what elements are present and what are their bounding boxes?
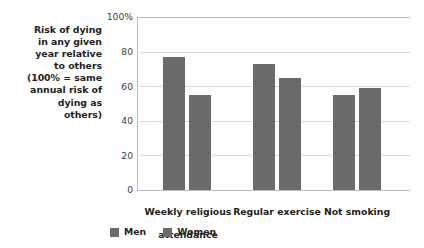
legend-item-men[interactable]: Men [110, 227, 146, 237]
y-axis-title-line: in any given [2, 36, 102, 48]
plot-area [137, 17, 410, 190]
gridline-0 [137, 190, 410, 191]
bar-chart: Risk of dying in any given year relative… [0, 0, 424, 248]
bar-group-not-smoking [333, 17, 403, 190]
x-category-label-line: Not smoking [324, 206, 390, 217]
bar-women-regular-exercise[interactable] [279, 78, 301, 190]
x-category-label-not-smoking: Not smoking [312, 195, 402, 218]
y-axis-title-line: others) [2, 109, 102, 121]
bar-group-regular-exercise [253, 17, 323, 190]
y-axis-title-line: Risk of dying [2, 24, 102, 36]
y-tick-label-60: 60 [99, 82, 133, 92]
legend-label-men: Men [124, 227, 146, 237]
legend-label-women: Women [177, 227, 216, 237]
y-tick-label-0: 0 [99, 185, 133, 195]
x-category-label-line: Weekly religious [145, 206, 232, 217]
y-tick-label-80: 80 [99, 47, 133, 57]
y-tick-label-20: 20 [99, 151, 133, 161]
y-axis-title-line: to others [2, 60, 102, 72]
y-tick-label-100: 100% [99, 12, 133, 22]
bar-women-weekly-religious-attendance[interactable] [189, 95, 211, 190]
bar-women-not-smoking[interactable] [359, 88, 381, 190]
legend-swatch-icon [110, 228, 119, 237]
legend-item-women[interactable]: Women [163, 227, 216, 237]
y-tick-label-40: 40 [99, 116, 133, 126]
y-axis-title-line: annual risk of [2, 84, 102, 96]
x-category-label-line: Regular exercise [233, 206, 321, 217]
y-axis-title: Risk of dying in any given year relative… [2, 24, 102, 121]
legend-swatch-icon [163, 228, 172, 237]
chart-legend: Men Women [110, 227, 216, 237]
bar-men-weekly-religious-attendance[interactable] [163, 57, 185, 190]
y-axis-tick-labels: 100% 80 60 40 20 0 [95, 0, 133, 248]
y-axis-title-line: year relative [2, 48, 102, 60]
bar-men-regular-exercise[interactable] [253, 64, 275, 190]
y-axis-title-line: dying as [2, 97, 102, 109]
bar-men-not-smoking[interactable] [333, 95, 355, 190]
y-axis-title-line: (100% = same [2, 72, 102, 84]
bar-group-weekly-religious-attendance [163, 17, 233, 190]
